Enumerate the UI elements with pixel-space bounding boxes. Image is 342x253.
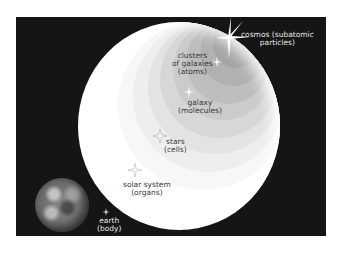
label-cosmos: cosmos (subatomic particles) [241,31,314,47]
label-stars: stars (cells) [164,138,187,154]
earth-star-icon [102,208,110,216]
galaxy-star-icon [183,86,195,98]
solar-system-star-icon [128,163,142,177]
label-clusters-of-galaxies: clusters of galaxies (atoms) [172,52,213,76]
clusters-star-icon [212,57,222,67]
earth-globe [35,178,89,232]
label-galaxy: galaxy (molecules) [178,99,222,115]
label-earth: earth (body) [97,217,121,233]
label-solar-system: solar system (organs) [123,181,171,197]
diagram-panel: cosmos (subatomic particles) clusters of… [16,17,326,236]
